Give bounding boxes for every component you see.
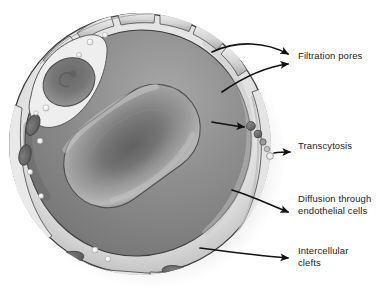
- label-intercellular-clefts: Intercellular clefts: [298, 245, 348, 268]
- label-filtration-pores: Filtration pores: [298, 50, 362, 62]
- label-diffusion-through-endothelial-cells: Diffusion through endothelial cells: [298, 193, 371, 216]
- arrow-transcytosis-label: [274, 152, 290, 153]
- label-transcytosis: Transcytosis: [298, 140, 352, 152]
